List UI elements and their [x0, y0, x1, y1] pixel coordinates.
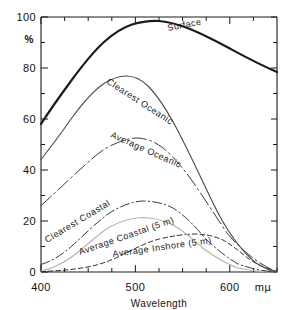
ytick-label-40: 40: [23, 164, 36, 176]
ytick-label-80: 80: [23, 62, 36, 74]
xtick-label-400: 400: [31, 281, 51, 293]
ytick-label-0: 0: [29, 266, 36, 278]
ytick-label-20: 20: [23, 215, 36, 227]
x-axis-unit-label: mµ: [255, 281, 272, 293]
xtick-label-600: 600: [220, 281, 240, 293]
ytick-label-60: 60: [23, 113, 36, 125]
ytick-label-100: 100: [16, 11, 36, 23]
chart-svg: 0 20 40 60 80 100 % 400 500 600 mµ Wavel…: [0, 0, 285, 310]
y-axis-unit-label: %: [25, 34, 34, 45]
x-axis-title: Wavelength: [131, 298, 187, 309]
spectral-transmittance-chart: 0 20 40 60 80 100 % 400 500 600 mµ Wavel…: [0, 0, 285, 310]
xtick-label-500: 500: [126, 281, 146, 293]
